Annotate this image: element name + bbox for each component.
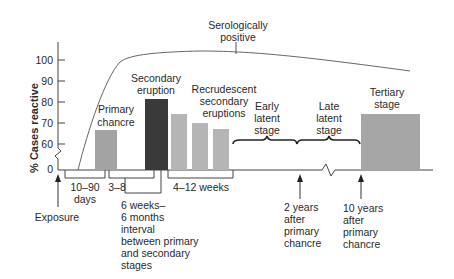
interval-10-90-label-1: 10–90 xyxy=(70,181,99,193)
interval-4-12-label: 4–12 weeks xyxy=(173,181,229,193)
two-years-label-1: 2 years xyxy=(284,201,318,213)
y-axis-ticks xyxy=(58,60,65,144)
interval-3-8-label: 3–8 xyxy=(108,181,126,193)
early-latent-label-2: latent xyxy=(254,112,280,124)
late-latent-label-2: latent xyxy=(316,112,342,124)
tick-80: 80 xyxy=(41,96,53,108)
y-axis-line xyxy=(55,42,61,170)
tick-0: 0 xyxy=(47,163,53,175)
bracket-3-8 xyxy=(109,170,154,178)
two-years-label-2: after xyxy=(284,213,306,225)
interval-6w-label-3: interval xyxy=(121,223,155,235)
secondary-label-2: eruption xyxy=(137,84,175,96)
primary-label-2: chancre xyxy=(97,116,135,128)
bar-tertiary-stage xyxy=(361,114,420,170)
interval-6w-label-2: 6 months xyxy=(121,211,164,223)
recrudescent-label-1: Recrudescent xyxy=(192,83,257,95)
primary-label-1: Primary xyxy=(98,103,135,115)
secondary-label-1: Secondary xyxy=(131,72,182,84)
ten-years-label-1: 10 years xyxy=(343,202,383,214)
early-latent-brace xyxy=(233,136,297,144)
bar-recrudescent-1 xyxy=(171,114,187,170)
interval-6w-label-4: between primary xyxy=(121,235,199,247)
bracket-6w-6m xyxy=(125,170,161,193)
bracket-10-90-days xyxy=(65,170,105,178)
y-axis-label: % Cases reactive xyxy=(28,83,40,173)
tertiary-label-1: Tertiary xyxy=(370,86,405,98)
bar-recrudescent-2 xyxy=(192,123,208,170)
bar-secondary-eruption xyxy=(145,99,168,170)
interval-6w-label-6: stages xyxy=(121,259,152,271)
exposure-label: Exposure xyxy=(35,211,80,223)
ten-years-label-4: chancre xyxy=(343,238,381,250)
recrudescent-label-3: eruptions xyxy=(202,107,245,119)
exposure-arrow-icon xyxy=(55,174,61,182)
interval-6w-label-1: 6 weeks– xyxy=(121,199,166,211)
tertiary-label-2: stage xyxy=(374,98,400,110)
bar-recrudescent-3 xyxy=(213,129,229,170)
ten-years-label-3: primary xyxy=(343,226,379,238)
syphilis-stages-diagram: % Cases reactive 100 90 80 70 60 0 Serol… xyxy=(0,0,454,279)
two-years-label-3: primary xyxy=(284,225,320,237)
recrudescent-label-2: secondary xyxy=(200,95,249,107)
tick-70: 70 xyxy=(41,117,53,129)
two-years-label-4: chancre xyxy=(284,237,322,249)
bracket-4-12-weeks xyxy=(168,170,233,178)
serology-label-1: Serologically xyxy=(208,19,268,31)
serology-label-2: positive xyxy=(220,31,256,43)
late-latent-brace xyxy=(297,136,360,144)
bar-primary-chancre xyxy=(95,130,117,170)
late-latent-label-3: stage xyxy=(316,124,342,136)
early-latent-label-3: stage xyxy=(254,124,280,136)
early-latent-label-1: Early xyxy=(255,100,280,112)
tick-60: 60 xyxy=(41,138,53,150)
ten-years-label-2: after xyxy=(343,214,365,226)
interval-10-90-label-2: days xyxy=(74,193,96,205)
ten-years-arrow-icon xyxy=(358,174,364,182)
interval-6w-label-5: and secondary xyxy=(121,247,191,259)
two-years-arrow-icon xyxy=(297,174,303,182)
late-latent-label-1: Late xyxy=(319,100,340,112)
tick-90: 90 xyxy=(41,75,53,87)
tick-100: 100 xyxy=(35,54,53,66)
